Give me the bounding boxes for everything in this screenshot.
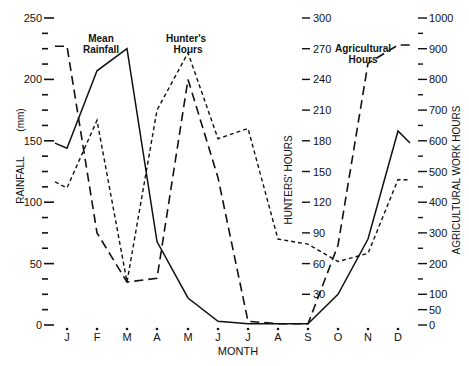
agri-tick-label: 300 bbox=[429, 227, 447, 239]
month-tick bbox=[126, 328, 129, 331]
hunters-tick-label: 90 bbox=[313, 227, 325, 239]
agri-tick-label: 1000 bbox=[429, 12, 453, 24]
agri-tick-label: 800 bbox=[429, 73, 447, 85]
month-tick bbox=[187, 328, 190, 331]
month-label: J bbox=[215, 331, 221, 343]
left-tick-label: 150 bbox=[24, 135, 42, 147]
hunters-tick-label: 210 bbox=[313, 104, 331, 116]
left-axis-unit: (mm) bbox=[15, 108, 26, 131]
series-mean-rainfallline bbox=[55, 49, 410, 324]
month-tick bbox=[397, 328, 400, 331]
x-axis-title: MONTH bbox=[218, 345, 258, 357]
month-label: D bbox=[394, 331, 402, 343]
agri-tick-label: 50 bbox=[429, 304, 441, 316]
month-label: A bbox=[153, 331, 161, 343]
right-axis-hunters-hours: 306090120150180210240270300 bbox=[302, 12, 331, 300]
month-tick bbox=[96, 328, 99, 331]
agri-tick-label: 400 bbox=[429, 196, 447, 208]
rainfall-hours-chart: 050100150200250 306090120150180210240270… bbox=[0, 0, 469, 366]
hunters-hours-annotation-2: Hours bbox=[174, 44, 203, 55]
month-label: M bbox=[183, 331, 192, 343]
left-tick-label: 200 bbox=[24, 73, 42, 85]
agri-tick-label: 100 bbox=[429, 288, 447, 300]
hunters-axis-title: HUNTERS' HOURS bbox=[283, 135, 294, 224]
hunters-tick-label: 150 bbox=[313, 166, 331, 178]
mean-rainfall-annotation: Mean bbox=[88, 33, 114, 44]
month-label: J bbox=[245, 331, 251, 343]
x-axis-months: JFMAMJJASOND bbox=[64, 328, 402, 343]
left-tick-label: 0 bbox=[36, 319, 42, 331]
month-tick bbox=[307, 328, 310, 331]
agri-tick-label: 500 bbox=[429, 166, 447, 178]
hunters-tick-label: 120 bbox=[313, 196, 331, 208]
agri-tick-label: 900 bbox=[429, 43, 447, 55]
left-tick-label: 250 bbox=[24, 12, 42, 24]
right-axis-agricultural-hours: 0501002003004005006007008009001000 bbox=[418, 12, 453, 331]
left-axis-rainfall: 050100150200250 bbox=[24, 12, 54, 331]
left-tick-label: 50 bbox=[30, 258, 42, 270]
month-label: N bbox=[364, 331, 372, 343]
month-tick bbox=[247, 328, 250, 331]
series-agricultural-hoursline bbox=[55, 45, 410, 324]
month-label: M bbox=[122, 331, 131, 343]
month-tick bbox=[66, 328, 69, 331]
month-label: A bbox=[274, 331, 282, 343]
agricultural-hours-annotation: Agricultural bbox=[335, 43, 391, 54]
agri-tick-label: 600 bbox=[429, 135, 447, 147]
month-tick bbox=[217, 328, 220, 331]
month-tick bbox=[156, 328, 159, 331]
month-tick bbox=[277, 328, 280, 331]
agri-tick-label: 0 bbox=[429, 319, 435, 331]
hunters-tick-label: 180 bbox=[313, 135, 331, 147]
hunters-hours-annotation: Hunter's bbox=[166, 33, 207, 44]
month-label: J bbox=[64, 331, 70, 343]
chart-container: 050100150200250 306090120150180210240270… bbox=[0, 0, 469, 366]
hunters-tick-label: 60 bbox=[313, 258, 325, 270]
hunters-tick-label: 270 bbox=[313, 43, 331, 55]
month-tick bbox=[367, 328, 370, 331]
hunters-tick-label: 240 bbox=[313, 73, 331, 85]
month-label: F bbox=[94, 331, 101, 343]
mean-rainfall-annotation-2: Rainfall bbox=[83, 44, 119, 55]
agricultural-hours-annotation-2: Hours bbox=[349, 54, 378, 65]
month-label: S bbox=[304, 331, 311, 343]
month-tick bbox=[337, 328, 340, 331]
month-label: O bbox=[334, 331, 343, 343]
hunters-tick-label: 300 bbox=[313, 12, 331, 24]
agri-tick-label: 200 bbox=[429, 258, 447, 270]
agri-tick-label: 700 bbox=[429, 104, 447, 116]
data-lines bbox=[55, 45, 410, 324]
agricultural-axis-title: AGRICULTURAL WORK HOURS bbox=[451, 105, 462, 254]
left-tick-label: 100 bbox=[24, 196, 42, 208]
left-axis-title: RAINFALL bbox=[15, 156, 26, 204]
